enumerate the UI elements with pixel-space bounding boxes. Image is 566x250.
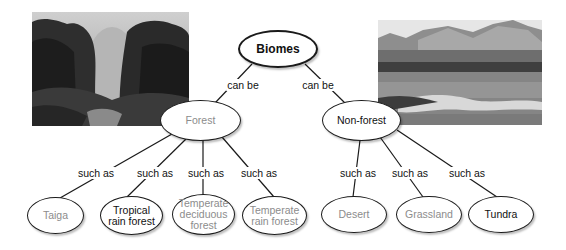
node-label: Taiga (43, 210, 68, 221)
link-label-such-as: such as (187, 167, 225, 179)
node-label: Tropical rain forest (105, 205, 158, 227)
node-label: Desert (339, 209, 370, 220)
node-label: Forest (186, 115, 216, 126)
node-grassland: Grassland (396, 196, 462, 233)
link-label-such-as: such as (136, 167, 174, 179)
node-temperate-deciduous-forest: Temperate deciduous forest (172, 194, 235, 235)
node-label: Temperate deciduous forest (179, 198, 229, 231)
node-label: Grassland (405, 209, 453, 220)
node-desert: Desert (321, 196, 387, 233)
node-label: Temperate rain forest (249, 205, 300, 227)
node-forest: Forest (160, 100, 241, 141)
node-tropical-rain-forest: Tropical rain forest (100, 196, 163, 235)
biomes-concept-map: can be can be such as such as such as su… (0, 0, 566, 250)
link-label-such-as: such as (448, 167, 486, 179)
node-label: Tundra (485, 209, 518, 220)
node-non-forest: Non-forest (322, 100, 401, 141)
link-label-such-as: such as (339, 167, 377, 179)
node-label: Non-forest (337, 115, 386, 126)
node-taiga: Taiga (27, 197, 84, 234)
node-label: Biomes (256, 44, 299, 55)
link-label-can-be: can be (226, 79, 260, 91)
link-label-such-as: such as (391, 167, 429, 179)
link-label-such-as: such as (240, 167, 278, 179)
node-temperate-rain-forest: Temperate rain forest (242, 196, 307, 235)
node-tundra: Tundra (468, 196, 534, 233)
link-label-such-as: such as (77, 167, 115, 179)
link-label-can-be: can be (301, 79, 335, 91)
node-biomes: Biomes (238, 30, 318, 68)
